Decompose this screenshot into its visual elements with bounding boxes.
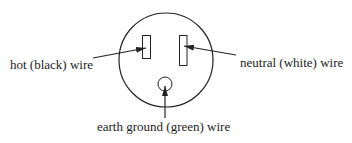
neutral-wire-label: neutral (white) wire [240,56,343,70]
neutral-slot [180,36,188,66]
ground-wire-label: earth ground (green) wire [97,120,230,134]
outlet-face [119,13,213,107]
hot-wire-label: hot (black) wire [10,58,93,72]
hot-slot [143,36,151,59]
neutral-arrow [184,46,236,55]
